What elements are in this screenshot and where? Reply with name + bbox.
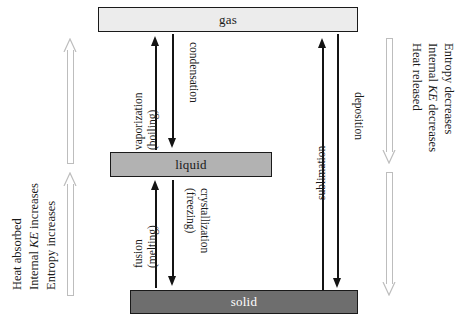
left-note-heat-absorbed: Heat absorbed xyxy=(10,218,25,290)
crystallization-label-line1: crystallization xyxy=(199,188,211,253)
vaporization-arrow-head xyxy=(151,36,159,46)
phase-box-gas: gas xyxy=(98,7,358,32)
right-note-internal-ke: Internal KE decreases xyxy=(425,43,440,152)
phase-box-liquid: liquid xyxy=(110,152,272,177)
deposition-label: deposition xyxy=(351,92,365,140)
sublimation-label-line1: sublimation xyxy=(315,146,327,200)
vaporization-label-line2: (boiling) xyxy=(146,93,160,150)
left-note-internal-ke: Internal KE increases xyxy=(27,183,42,290)
left-note-line2-pre: Internal xyxy=(27,248,41,290)
crystallization-arrow-head xyxy=(168,276,176,286)
left-note-line1: Heat absorbed xyxy=(10,218,24,290)
fusion-arrow-head xyxy=(151,180,159,190)
deposition-arrow-head xyxy=(333,278,341,288)
right-note-line2-em: KE xyxy=(426,85,440,101)
phase-box-solid: solid xyxy=(130,290,358,314)
phase-label-solid: solid xyxy=(231,294,257,310)
right-note-line2-pre: Internal xyxy=(426,43,440,85)
left-note-line2-post: increases xyxy=(27,183,41,232)
right-note-line1: Heat released xyxy=(410,43,424,111)
left-note-line3: Entropy increases xyxy=(44,201,58,290)
phase-transition-diagram: gas liquid solid vaporization (boiling) … xyxy=(0,0,468,325)
left-note-entropy: Entropy increases xyxy=(44,201,59,290)
right-note-heat-released: Heat released xyxy=(409,43,424,111)
heat-released-arrow-lower-head xyxy=(381,282,397,296)
phase-label-liquid: liquid xyxy=(175,157,207,173)
crystallization-arrow-shaft xyxy=(172,180,174,276)
sublimation-label: sublimation xyxy=(315,146,329,200)
heat-released-arrow-upper-head xyxy=(381,150,397,164)
vaporization-label-line1: vaporization xyxy=(132,93,144,150)
heat-released-arrow-lower xyxy=(381,172,397,296)
phase-label-gas: gas xyxy=(219,12,237,28)
fusion-label-line2: (melting) xyxy=(146,225,160,268)
right-note-line2-post: decreases xyxy=(426,101,440,152)
sublimation-arrow-head xyxy=(318,38,326,48)
left-note-line2-em: KE xyxy=(27,232,41,248)
heat-absorbed-arrow-upper xyxy=(62,38,78,164)
condensation-arrow-shaft xyxy=(172,34,174,138)
condensation-label-line1: condensation xyxy=(188,42,200,103)
heat-released-arrow-upper xyxy=(381,38,397,164)
right-note-entropy: Entropy decreases xyxy=(441,43,456,134)
crystallization-label: crystallization (freezing) xyxy=(184,188,211,253)
deposition-label-line1: deposition xyxy=(353,92,365,140)
condensation-label: condensation xyxy=(186,42,200,103)
vaporization-label: vaporization (boiling) xyxy=(132,93,159,150)
crystallization-label-line2: (freezing) xyxy=(184,188,198,253)
fusion-label-line1: fusion xyxy=(132,239,144,268)
fusion-label: fusion (melting) xyxy=(132,225,159,268)
heat-absorbed-arrow-lower xyxy=(62,172,78,296)
deposition-arrow-shaft xyxy=(337,34,339,278)
right-note-line3: Entropy decreases xyxy=(442,43,456,134)
condensation-arrow-head xyxy=(168,138,176,148)
